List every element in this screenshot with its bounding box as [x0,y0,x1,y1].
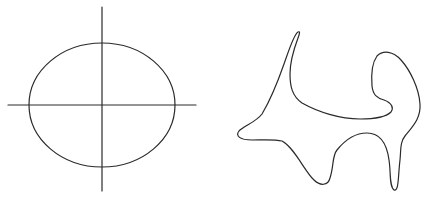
figure-canvas [0,0,425,199]
irregular-closed-curve [238,32,420,190]
right-panel-blob [238,32,420,190]
figure-svg [0,0,425,199]
left-panel-ellipse-with-axes [8,7,196,191]
